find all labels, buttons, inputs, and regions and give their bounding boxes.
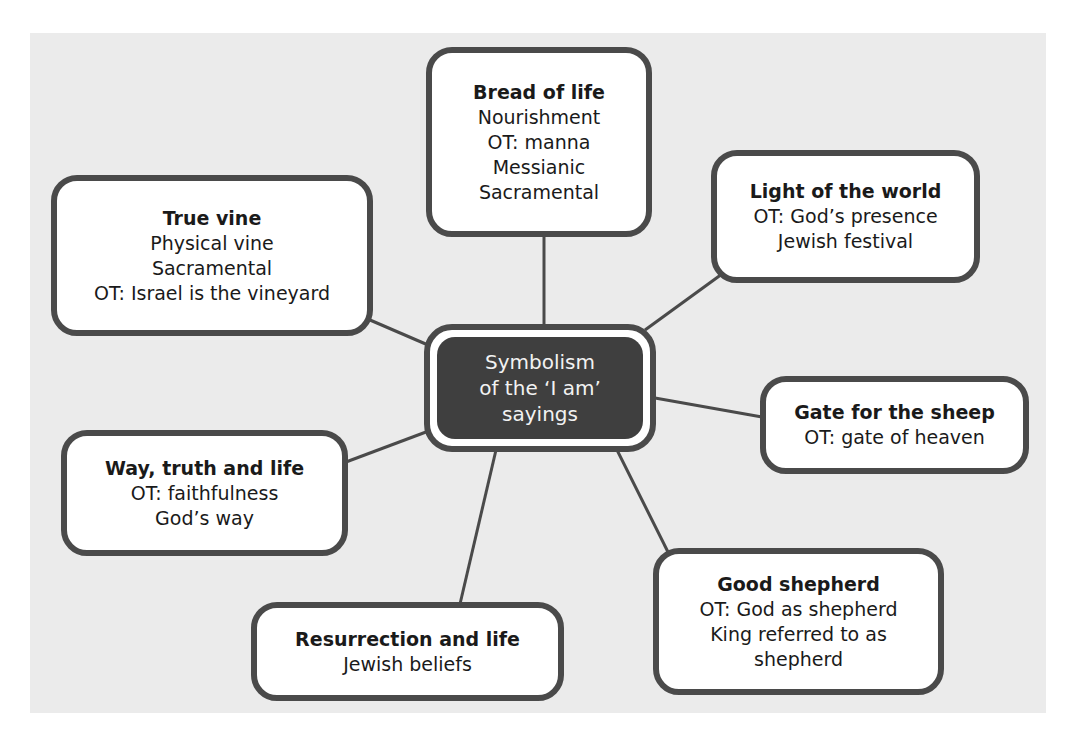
node-title: True vine [163,206,262,231]
node-line: God’s way [155,506,254,531]
node-title: Bread of life [473,80,605,105]
node-good-shepherd: Good shepherd OT: God as shepherd King r… [653,548,944,695]
node-title: Resurrection and life [295,627,520,652]
central-topic-line: of the ‘I am’ [479,375,601,401]
connector-way [346,432,426,462]
node-title: Light of the world [750,179,942,204]
node-line: shepherd [754,647,843,672]
node-light-of-the-world: Light of the world OT: God’s presence Je… [711,150,980,283]
node-line: OT: manna [488,130,591,155]
node-line: OT: Israel is the vineyard [94,281,330,306]
connector-gate [655,398,762,417]
node-title: Way, truth and life [105,456,304,481]
node-line: OT: God’s presence [753,204,937,229]
node-resurrection-and-life: Resurrection and life Jewish beliefs [251,602,564,701]
node-line: King referred to as [710,622,887,647]
connector-resurrection [460,450,496,604]
node-line: Sacramental [152,256,272,281]
connector-light [645,274,722,330]
node-line: Jewish festival [778,229,913,254]
central-topic-line: Symbolism [485,349,595,375]
node-true-vine: True vine Physical vine Sacramental OT: … [51,175,373,336]
connector-shepherd [617,450,668,552]
node-line: Messianic [493,155,586,180]
node-line: Nourishment [478,105,601,130]
node-gate-for-the-sheep: Gate for the sheep OT: gate of heaven [760,376,1029,474]
node-title: Good shepherd [717,572,880,597]
node-line: Physical vine [150,231,274,256]
node-line: Sacramental [479,180,599,205]
central-topic-line: sayings [502,401,578,427]
node-bread-of-life: Bread of life Nourishment OT: manna Mess… [426,47,652,237]
central-topic: Symbolism of the ‘I am’ sayings [424,324,656,452]
node-line: OT: faithfulness [131,481,279,506]
node-line: OT: God as shepherd [700,597,898,622]
node-way-truth-and-life: Way, truth and life OT: faithfulness God… [61,430,348,556]
node-title: Gate for the sheep [794,400,995,425]
connector-vine [370,320,428,345]
node-line: OT: gate of heaven [804,425,985,450]
node-line: Jewish beliefs [343,652,472,677]
central-topic-label: Symbolism of the ‘I am’ sayings [437,337,643,439]
